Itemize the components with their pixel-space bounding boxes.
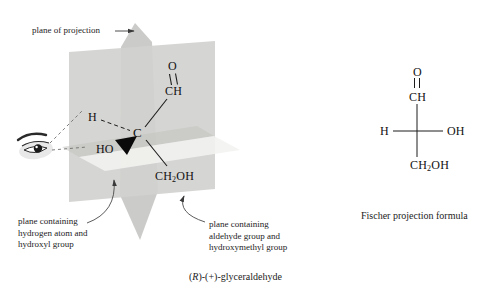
caption-post: )-(+)-glyceraldehyde bbox=[198, 271, 281, 282]
molecule3d-hydroxymethyl: CH2OH bbox=[155, 169, 194, 184]
molecule3d-hydroxyl: HO bbox=[96, 142, 114, 157]
right-plane-label-line3: hydroxymethyl group bbox=[209, 242, 287, 254]
glyceraldehyde-caption: (R)-(+)-glyceraldehyde bbox=[189, 271, 282, 282]
fischer-projection-figure: plane of projection plane containing hyd… bbox=[0, 0, 485, 288]
molecule3d-center-c: C bbox=[133, 125, 142, 141]
fischer-hydroxyl: OH bbox=[447, 124, 465, 139]
arrow-right-plane-label bbox=[183, 196, 205, 222]
fischer-aldehyde-o: O bbox=[413, 65, 422, 80]
molecule3d-aldehyde-ch: CH bbox=[165, 84, 182, 99]
left-plane-label-line3: hydroxyl group bbox=[18, 239, 87, 251]
eye-icon bbox=[18, 134, 54, 162]
left-plane-label-line2: hydrogen atom and bbox=[18, 228, 87, 240]
molecule3d-hydroxymethyl-main: CH bbox=[155, 169, 172, 183]
molecule3d-aldehyde-o: O bbox=[168, 59, 177, 74]
molecule3d-hydrogen: H bbox=[88, 110, 97, 125]
eyebrow bbox=[18, 134, 46, 140]
fischer-hydroxymethyl-main: CH bbox=[410, 158, 427, 172]
left-plane-label-line1: plane containing bbox=[18, 216, 87, 228]
right-plane-label: plane containing aldehyde group and hydr… bbox=[209, 219, 287, 254]
fischer-aldehyde-ch: CH bbox=[409, 90, 426, 105]
plane-of-projection-label: plane of projection bbox=[32, 25, 100, 37]
fischer-hydroxymethyl: CH2OH bbox=[410, 158, 449, 173]
right-plane-label-line1: plane containing bbox=[209, 219, 287, 231]
left-plane-label: plane containing hydrogen atom and hydro… bbox=[18, 216, 87, 251]
fischer-caption: Fischer projection formula bbox=[361, 210, 468, 221]
iris bbox=[34, 144, 42, 152]
right-plane-label-line2: aldehyde group and bbox=[209, 231, 287, 243]
molecule3d-hydroxymethyl-tail: OH bbox=[176, 169, 194, 183]
fischer-hydrogen: H bbox=[380, 124, 389, 139]
iris-highlight bbox=[35, 146, 37, 148]
fischer-hydroxymethyl-tail: OH bbox=[431, 158, 449, 172]
